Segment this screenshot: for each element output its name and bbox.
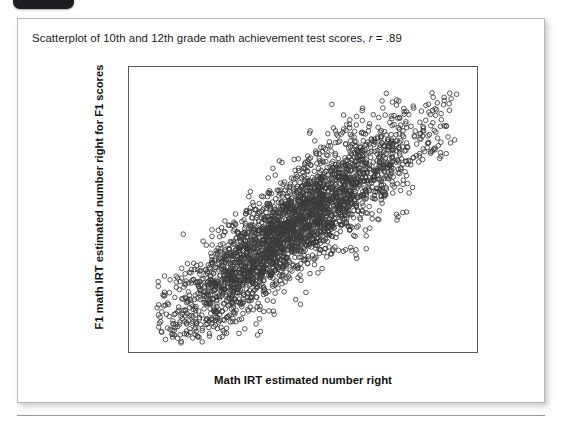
y-tick-mark	[128, 195, 129, 196]
corner-tab-badge	[13, 0, 74, 9]
x-tick-mark	[304, 352, 305, 353]
x-axis-title: Math IRT estimated number right	[128, 374, 478, 386]
figure-card: Scatterplot of 10th and 12th grade math …	[17, 18, 545, 403]
y-tick-mark	[128, 338, 129, 339]
x-tick-mark	[254, 352, 255, 353]
plot-frame: 80 60 40 20 10 20 30 40 50 60 70	[128, 66, 478, 353]
y-tick-mark	[128, 123, 129, 124]
x-tick-mark	[204, 352, 205, 353]
x-tick-mark	[354, 352, 355, 353]
page-divider-rule	[17, 415, 545, 416]
y-axis-title: F1 math IRT estimated number right for F…	[93, 52, 105, 342]
x-tick-mark	[154, 352, 155, 353]
x-tick-mark	[404, 352, 405, 353]
y-tick-mark	[128, 267, 129, 268]
x-tick-mark	[454, 352, 455, 353]
scatterplot-chart: F1 math IRT estimated number right for F…	[18, 19, 546, 404]
scatter-points-layer	[129, 67, 478, 353]
